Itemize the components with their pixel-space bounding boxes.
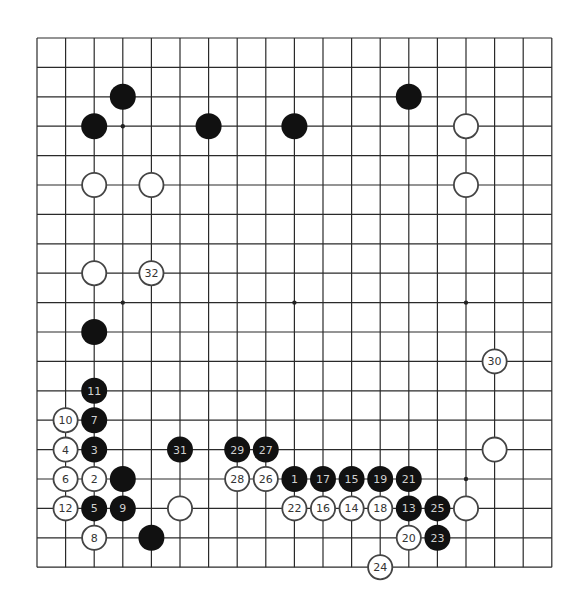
black-stone[interactable] [138, 525, 164, 551]
star-point-icon [121, 124, 125, 128]
star-point-icon [292, 300, 296, 304]
white-stone[interactable]: 4 [54, 438, 78, 462]
move-number: 18 [373, 502, 387, 515]
black-stone[interactable] [81, 113, 107, 139]
white-stone[interactable] [82, 173, 106, 197]
black-stone[interactable]: 7 [81, 407, 107, 433]
white-stone-icon [483, 438, 507, 462]
white-stone[interactable]: 14 [340, 496, 364, 520]
white-stone[interactable] [454, 173, 478, 197]
black-stone[interactable]: 13 [396, 495, 422, 521]
white-stone[interactable]: 8 [82, 526, 106, 550]
white-stone-icon [82, 261, 106, 285]
move-number: 30 [488, 355, 502, 368]
black-stone[interactable]: 29 [224, 437, 250, 463]
white-stone-icon [139, 173, 163, 197]
black-stone[interactable]: 23 [424, 525, 450, 551]
black-stone[interactable]: 1 [281, 466, 307, 492]
black-stone-icon [396, 84, 422, 110]
move-number: 19 [373, 473, 387, 486]
white-stone[interactable]: 22 [282, 496, 306, 520]
move-number: 28 [230, 473, 244, 486]
black-stone[interactable] [81, 319, 107, 345]
black-stone-icon [110, 466, 136, 492]
black-stone[interactable]: 15 [339, 466, 365, 492]
move-number: 2 [91, 473, 98, 486]
move-number: 4 [62, 444, 69, 457]
black-stone[interactable]: 5 [81, 495, 107, 521]
move-number: 13 [402, 502, 416, 515]
white-stone[interactable] [139, 173, 163, 197]
star-point-icon [464, 477, 468, 481]
white-stone[interactable] [483, 438, 507, 462]
move-number: 15 [345, 473, 359, 486]
white-stone[interactable]: 16 [311, 496, 335, 520]
white-stone-icon [168, 496, 192, 520]
move-number: 27 [259, 444, 273, 457]
black-stone[interactable]: 9 [110, 495, 136, 521]
black-stone-icon [196, 113, 222, 139]
move-number: 8 [91, 532, 98, 545]
move-number: 6 [62, 473, 69, 486]
move-number: 14 [345, 502, 359, 515]
move-number: 32 [144, 267, 158, 280]
white-stone[interactable] [168, 496, 192, 520]
black-stone[interactable]: 19 [367, 466, 393, 492]
white-stone[interactable] [82, 261, 106, 285]
move-number: 17 [316, 473, 330, 486]
white-stone[interactable]: 12 [54, 496, 78, 520]
black-stone-icon [81, 319, 107, 345]
move-number: 10 [59, 414, 73, 427]
black-stone[interactable] [281, 113, 307, 139]
move-number: 23 [430, 532, 444, 545]
move-number: 11 [87, 385, 101, 398]
white-stone[interactable]: 6 [54, 467, 78, 491]
black-stone[interactable]: 27 [253, 437, 279, 463]
move-number: 1 [291, 473, 298, 486]
black-stone-icon [138, 525, 164, 551]
move-number: 24 [373, 561, 387, 574]
black-stone[interactable]: 17 [310, 466, 336, 492]
black-stone[interactable]: 25 [424, 495, 450, 521]
black-stone[interactable] [396, 84, 422, 110]
black-stone[interactable]: 3 [81, 437, 107, 463]
move-number: 16 [316, 502, 330, 515]
move-number: 7 [91, 414, 98, 427]
move-number: 3 [91, 444, 98, 457]
white-stone[interactable]: 10 [54, 408, 78, 432]
move-number: 9 [119, 502, 126, 515]
black-stone[interactable]: 11 [81, 378, 107, 404]
white-stone[interactable] [454, 114, 478, 138]
black-stone-icon [110, 84, 136, 110]
black-stone[interactable] [110, 84, 136, 110]
white-stone[interactable] [454, 496, 478, 520]
white-stone-icon [454, 114, 478, 138]
white-stone-icon [454, 173, 478, 197]
white-stone[interactable]: 32 [139, 261, 163, 285]
white-stone[interactable]: 24 [368, 555, 392, 579]
black-stone[interactable]: 21 [396, 466, 422, 492]
star-point-icon [121, 300, 125, 304]
white-stone[interactable]: 28 [225, 467, 249, 491]
black-stone[interactable]: 31 [167, 437, 193, 463]
white-stone[interactable]: 30 [483, 349, 507, 373]
black-stone[interactable] [196, 113, 222, 139]
move-number: 22 [287, 502, 301, 515]
star-point-icon [464, 300, 468, 304]
move-number: 5 [91, 502, 98, 515]
black-stone-icon [281, 113, 307, 139]
move-number: 29 [230, 444, 244, 457]
move-number: 20 [402, 532, 416, 545]
black-stone[interactable] [110, 466, 136, 492]
white-stone[interactable]: 18 [368, 496, 392, 520]
black-stone-icon [81, 113, 107, 139]
white-stone[interactable]: 2 [82, 467, 106, 491]
go-board[interactable]: 3230111074331292762282611715192112592216… [0, 0, 579, 614]
white-stone-icon [454, 496, 478, 520]
white-stone[interactable]: 26 [254, 467, 278, 491]
move-number: 26 [259, 473, 273, 486]
move-number: 21 [402, 473, 416, 486]
move-number: 31 [173, 444, 187, 457]
white-stone[interactable]: 20 [397, 526, 421, 550]
white-stone-icon [82, 173, 106, 197]
